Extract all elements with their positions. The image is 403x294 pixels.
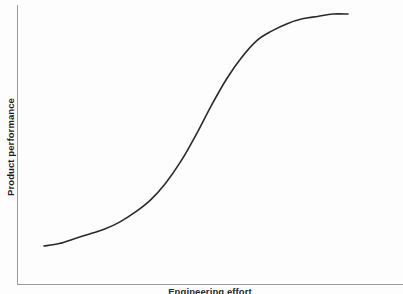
product-performance-curve — [44, 14, 348, 246]
chart-plot-area — [0, 0, 403, 294]
s-curve-chart: Product performance Engineering effort — [0, 0, 403, 294]
